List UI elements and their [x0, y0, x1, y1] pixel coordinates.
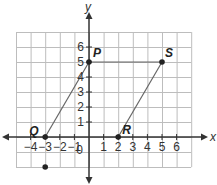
point-label-S: S: [165, 46, 173, 60]
y-tick-label: 3: [77, 85, 84, 99]
point-R: [115, 134, 121, 140]
y-tick-label: 5: [77, 55, 84, 69]
point-label-P: P: [93, 46, 102, 60]
y-axis-label: y: [84, 0, 92, 14]
point-P: [86, 59, 92, 65]
point-label-R: R: [122, 123, 131, 137]
y-tick-label: 6: [77, 40, 84, 54]
x-axis-left-arrow-icon: [2, 134, 9, 141]
coordinate-plane: PSQR −4−3−2−11234561234560xy: [0, 0, 217, 185]
x-axis-right-arrow-icon: [201, 134, 208, 141]
x-tick-label: −3: [38, 140, 52, 154]
x-tick-label: 3: [129, 140, 136, 154]
x-tick-label: −4: [24, 140, 38, 154]
y-tick-label: 2: [77, 100, 84, 114]
point-label-Q: Q: [29, 124, 39, 138]
unlabeled-point: [42, 164, 48, 170]
y-tick-label: 1: [77, 115, 84, 129]
point-S: [159, 59, 165, 65]
x-tick-label: 1: [100, 140, 107, 154]
point-Q: [42, 134, 48, 140]
x-tick-label: −2: [53, 140, 67, 154]
y-tick-label: 4: [77, 70, 84, 84]
x-tick-label: 5: [159, 140, 166, 154]
origin-label: 0: [76, 143, 83, 157]
x-tick-label: 2: [115, 140, 122, 154]
x-axis-label: x: [209, 130, 217, 144]
x-tick-label: 4: [144, 140, 151, 154]
y-axis-down-arrow-icon: [86, 177, 93, 184]
x-tick-label: 6: [173, 140, 180, 154]
